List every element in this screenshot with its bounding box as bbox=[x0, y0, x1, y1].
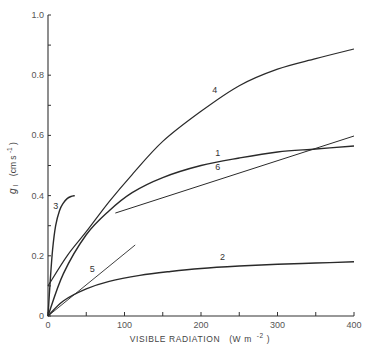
x-tick-label: 400 bbox=[346, 320, 361, 330]
x-tick-label: 100 bbox=[117, 320, 132, 330]
curve-6 bbox=[115, 136, 354, 213]
y-axis-label: g l (cm s -1 ) bbox=[4, 142, 20, 194]
chart: 010020030040000.20.40.60.81.0 123456 VIS… bbox=[0, 0, 369, 351]
curve-label-1: 1 bbox=[215, 148, 220, 158]
y-tick-label: 0.6 bbox=[31, 130, 44, 140]
y-tick-label: 0.2 bbox=[31, 251, 44, 261]
y-tick-label: 0.4 bbox=[31, 191, 44, 201]
y-tick-label: 1.0 bbox=[31, 10, 44, 20]
x-tick-label: 0 bbox=[45, 320, 50, 330]
curve-label-6: 6 bbox=[215, 162, 220, 172]
curve-label-5: 5 bbox=[90, 264, 95, 274]
axes: 010020030040000.20.40.60.81.0 bbox=[31, 10, 361, 330]
x-tick-label: 200 bbox=[193, 320, 208, 330]
curve-label-2: 2 bbox=[220, 252, 225, 262]
curve-label-4: 4 bbox=[212, 85, 217, 95]
curves bbox=[48, 49, 354, 316]
curve-1 bbox=[48, 146, 354, 316]
x-axis-label: VISIBLE RADIATION (W m -2 ) bbox=[130, 330, 270, 344]
y-tick-label: 0 bbox=[39, 311, 44, 321]
y-tick-label: 0.8 bbox=[31, 70, 44, 80]
x-tick-label: 300 bbox=[270, 320, 285, 330]
curve-label-3: 3 bbox=[53, 201, 58, 211]
curve-4 bbox=[48, 49, 354, 286]
